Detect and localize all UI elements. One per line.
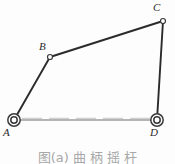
link-AB (14, 57, 50, 120)
vertex-label-c: C (153, 2, 160, 13)
vertex-label-d: D (150, 127, 158, 138)
ground-link-AD (14, 118, 157, 120)
link-CD (157, 21, 163, 120)
link-BC (50, 21, 163, 57)
vertex-label-b: B (39, 41, 46, 52)
figure-caption: 图(a) 曲 柄 摇 杆 (0, 151, 175, 164)
joint-B-pin (48, 55, 53, 60)
linkage-figure: A B C D 图(a) 曲 柄 摇 杆 (0, 0, 175, 164)
linkage-diagram-canvas (0, 0, 175, 164)
joint-A-fixed-pivot (8, 114, 20, 126)
vertex-label-a: A (3, 127, 10, 138)
joint-C-pin (161, 19, 166, 24)
joint-D-fixed-pivot (151, 114, 163, 126)
